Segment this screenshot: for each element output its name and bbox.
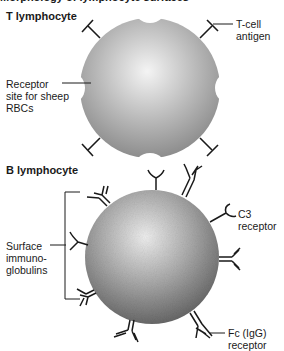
receptor-site-label: Receptor site for sheep RBCs [6, 78, 69, 114]
t-cell-antigen-label: T-cell antigen [236, 18, 270, 42]
b-lymphocyte-heading: B lymphocyte [6, 164, 78, 176]
fc-igg-receptor-label: Fc (IgG) receptor [228, 327, 267, 351]
b-lymphocyte-cell [85, 190, 219, 324]
t-lymphocyte-cell [80, 18, 220, 158]
t-lymphocyte-heading: T lymphocyte [6, 10, 77, 22]
surface-immunoglobulins-label: Surface immuno- globulins [6, 240, 47, 276]
c3-receptor-label: C3 receptor [238, 208, 277, 232]
